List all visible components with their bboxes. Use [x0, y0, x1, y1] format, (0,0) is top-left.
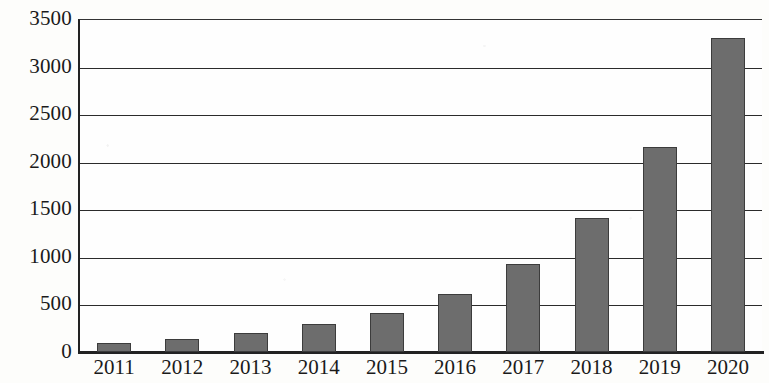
bar-column [711, 19, 745, 352]
bar [165, 339, 199, 352]
y-axis-tick-label: 3000 [2, 56, 72, 77]
y-axis-tick-label: 2500 [2, 103, 72, 124]
y-axis-tick-label: 3500 [2, 8, 72, 29]
bar-column [165, 19, 199, 352]
bar-column [234, 19, 268, 352]
y-axis-tick-label: 2000 [2, 151, 72, 172]
x-axis-tick-label: 2016 [421, 355, 489, 379]
bar-column [370, 19, 404, 352]
y-axis-tick-label: 1000 [2, 246, 72, 267]
x-axis-tick-label: 2013 [216, 355, 284, 379]
x-axis-tick-label: 2015 [353, 355, 421, 379]
y-axis-tick-label: 0 [2, 341, 72, 362]
bar [643, 147, 677, 353]
x-axis-tick-label: 2014 [285, 355, 353, 379]
x-axis-tick-label: 2019 [626, 355, 694, 379]
x-axis-tick-label: 2020 [694, 355, 762, 379]
bar [506, 264, 540, 352]
bar-chart: 3500300025002000150010005000 20112012201… [0, 0, 769, 383]
bar [711, 38, 745, 352]
y-axis: 3500300025002000150010005000 [0, 0, 72, 383]
bar-column [438, 19, 472, 352]
y-axis-tick-label: 500 [2, 293, 72, 314]
bar [234, 333, 268, 352]
bar [302, 324, 336, 352]
bar-column [643, 19, 677, 352]
bar [575, 218, 609, 352]
y-axis-tick-label: 1500 [2, 198, 72, 219]
bar-column [302, 19, 336, 352]
bar [370, 313, 404, 352]
x-axis-tick-label: 2017 [489, 355, 557, 379]
bar-column [97, 19, 131, 352]
x-axis-tick-label: 2012 [148, 355, 216, 379]
bar-column [506, 19, 540, 352]
bar [97, 343, 131, 353]
bar-column [575, 19, 609, 352]
x-axis-tick-label: 2011 [80, 355, 148, 379]
x-axis-tick-label: 2018 [557, 355, 625, 379]
bar [438, 294, 472, 352]
